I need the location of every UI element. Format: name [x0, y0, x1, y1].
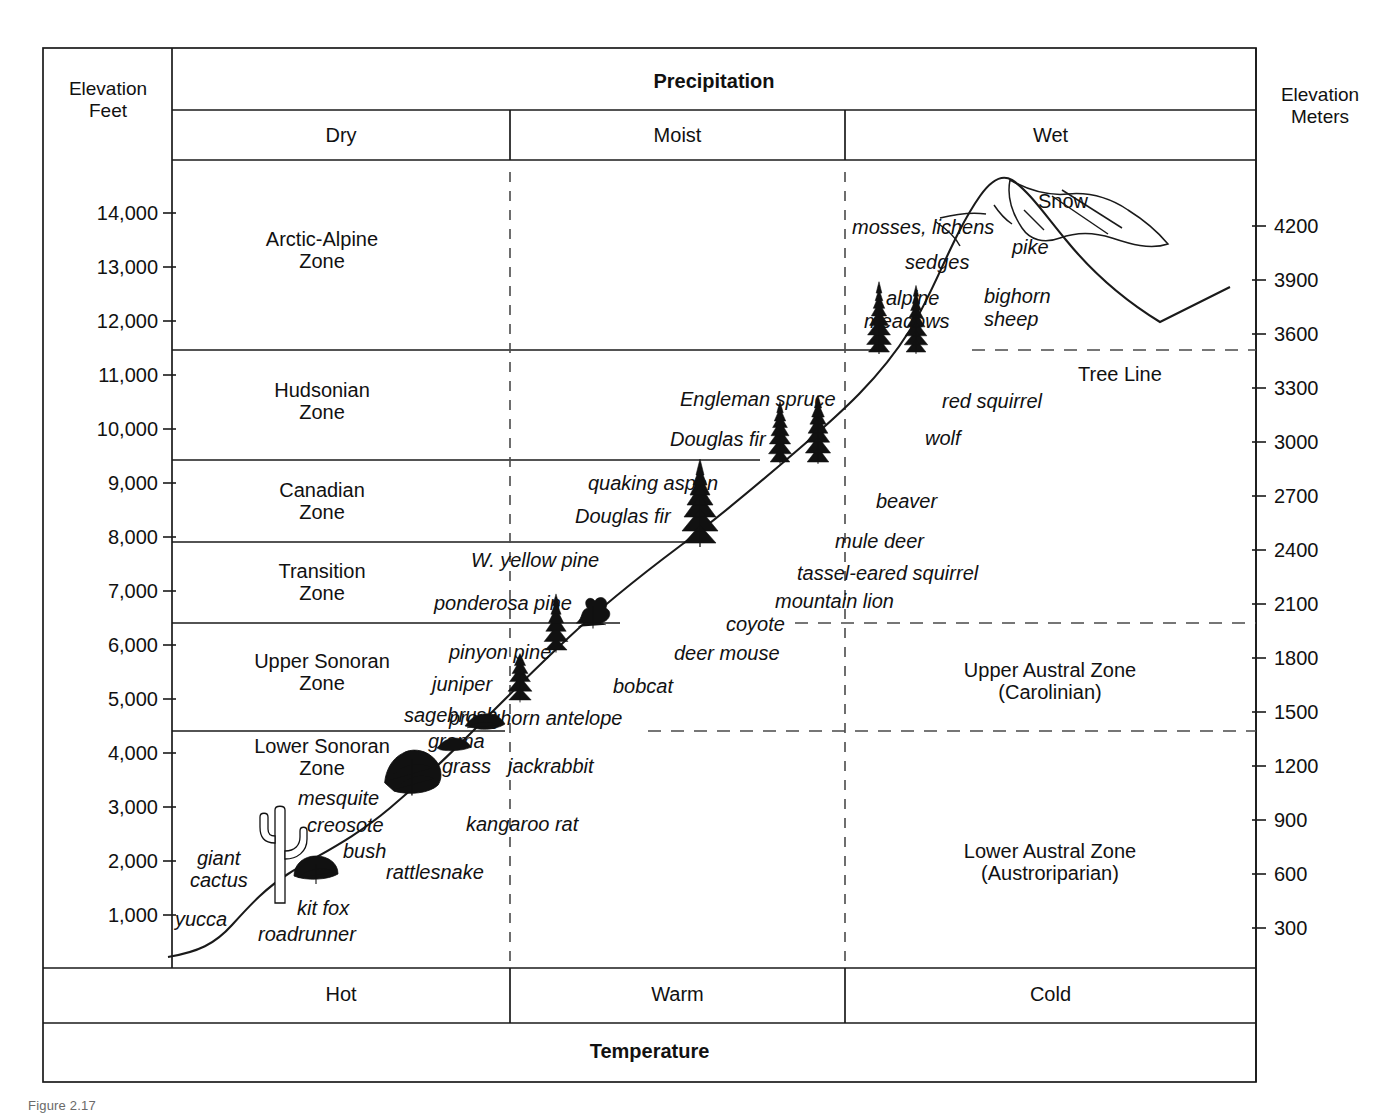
species-label-pinyon-pine: pinyon pine [449, 641, 551, 663]
species-label-juniper: juniper [432, 673, 492, 695]
left-tick-marks [163, 213, 176, 915]
left-tick-label: 9,000 [48, 472, 158, 494]
species-label-bighorn: bighorn [984, 285, 1051, 307]
zone-label-lower-sonoran: Lower Sonoran [182, 735, 462, 757]
species-label-tassel-eared-squirrel: tassel-eared squirrel [797, 562, 978, 584]
figure-canvas: Precipitation Dry Moist Wet Hot Warm Col… [0, 0, 1380, 1119]
left-tick-label: 4,000 [48, 742, 158, 764]
species-label-sheep: sheep [984, 308, 1039, 330]
right-tick-label: 3600 [1274, 323, 1364, 345]
zone-label-lower-sonoran-line2: Zone [182, 757, 462, 779]
left-tick-label: 5,000 [48, 688, 158, 710]
species-label-w-yellow-pine: W. yellow pine [471, 549, 599, 571]
precipitation-header: Precipitation [172, 70, 1256, 92]
right-tick-label: 2400 [1274, 539, 1364, 561]
temp-column-cold: Cold [845, 983, 1256, 1005]
right-tick-label: 2700 [1274, 485, 1364, 507]
left-tick-label: 1,000 [48, 904, 158, 926]
right-axis-title-line1: Elevation [1262, 84, 1378, 105]
species-label-douglas-fir-lower: Douglas fir [575, 505, 671, 527]
species-label-douglas-fir-upper: Douglas fir [670, 428, 766, 450]
precip-column-moist: Moist [510, 124, 845, 146]
species-label-cactus: cactus [190, 869, 248, 891]
zone-label-upper-austral-line2: (Carolinian) [900, 681, 1200, 703]
species-label-creosote: creosote [307, 814, 384, 836]
zone-label-canadian-line2: Zone [192, 501, 452, 523]
figure-caption: Figure 2.17 [28, 1098, 96, 1113]
tree-icon [576, 598, 609, 629]
species-label-kangaroo-rat: kangaroo rat [466, 813, 578, 835]
species-label-giant: giant [197, 847, 240, 869]
species-label-jackrabbit: jackrabbit [508, 755, 594, 777]
species-label-kit-fox: kit fox [297, 897, 349, 919]
species-label-roadrunner: roadrunner [258, 923, 356, 945]
zone-label-hudsonian-line2: Zone [192, 401, 452, 423]
species-label-wolf: wolf [925, 427, 961, 449]
zone-label-canadian: Canadian [192, 479, 452, 501]
species-label-pronghorn-antelope: pronghorn antelope [449, 707, 622, 729]
species-label-grama: grama [428, 730, 485, 752]
zone-label-arctic-alpine: Arctic-Alpine [192, 228, 452, 250]
left-tick-label: 6,000 [48, 634, 158, 656]
left-tick-label: 10,000 [48, 418, 158, 440]
left-tick-label: 3,000 [48, 796, 158, 818]
left-tick-label: 11,000 [48, 364, 158, 386]
species-label-quaking-aspen: quaking aspen [588, 472, 718, 494]
left-axis-title-line2: Feet [48, 100, 168, 121]
zone-label-transition: Transition [192, 560, 452, 582]
right-tick-label: 3000 [1274, 431, 1364, 453]
zone-label-transition-line2: Zone [192, 582, 452, 604]
species-label-red-squirrel: red squirrel [942, 390, 1042, 412]
species-label-sedges: sedges [905, 251, 970, 273]
temp-column-hot: Hot [172, 983, 510, 1005]
precip-column-wet: Wet [845, 124, 1256, 146]
right-tick-label: 4200 [1274, 215, 1364, 237]
species-label-mesquite: mesquite [298, 787, 379, 809]
species-label-bush: bush [343, 840, 386, 862]
left-tick-label: 8,000 [48, 526, 158, 548]
left-tick-label: 13,000 [48, 256, 158, 278]
left-tick-label: 14,000 [48, 202, 158, 224]
species-label-engleman-spruce: Engleman spruce [680, 388, 836, 410]
zone-label-upper-sonoran: Upper Sonoran [182, 650, 462, 672]
right-tick-marks [1252, 226, 1266, 928]
species-label-bobcat: bobcat [613, 675, 673, 697]
tree-icon [769, 401, 792, 463]
zone-label-upper-austral: Upper Austral Zone [900, 659, 1200, 681]
right-tick-label: 1800 [1274, 647, 1364, 669]
species-label-mountain-lion: mountain lion [775, 590, 894, 612]
right-tick-label: 1500 [1274, 701, 1364, 723]
zone-label-lower-austral: Lower Austral Zone [900, 840, 1200, 862]
right-tick-label: 3900 [1274, 269, 1364, 291]
right-axis-title-line2: Meters [1262, 106, 1378, 127]
species-label-beaver: beaver [876, 490, 937, 512]
species-label-rattlesnake: rattlesnake [386, 861, 484, 883]
left-tick-label: 2,000 [48, 850, 158, 872]
species-label-pike: pike [1012, 236, 1049, 258]
left-tick-label: 12,000 [48, 310, 158, 332]
species-label-meadows: meadows [864, 310, 950, 332]
left-axis-title-line1: Elevation [48, 78, 168, 99]
right-tick-label: 1200 [1274, 755, 1364, 777]
species-label-ponderosa-pine: ponderosa pine [434, 592, 572, 614]
shrub-icon [294, 856, 338, 884]
snow-label: Snow [1038, 190, 1088, 212]
temperature-header: Temperature [43, 1040, 1256, 1062]
left-tick-label: 7,000 [48, 580, 158, 602]
right-tick-label: 600 [1274, 863, 1364, 885]
species-label-coyote: coyote [726, 613, 785, 635]
zone-label-arctic-alpine-line2: Zone [192, 250, 452, 272]
right-tick-label: 300 [1274, 917, 1364, 939]
species-label-alpine: alpine [886, 287, 939, 309]
precip-column-dry: Dry [172, 124, 510, 146]
species-label-mosses-lichens: mosses, lichens [852, 216, 994, 238]
right-tick-label: 3300 [1274, 377, 1364, 399]
tree-line-label: Tree Line [1078, 363, 1162, 385]
right-tick-label: 2100 [1274, 593, 1364, 615]
right-tick-label: 900 [1274, 809, 1364, 831]
species-label-grass: grass [442, 755, 491, 777]
zone-label-upper-sonoran-line2: Zone [182, 672, 462, 694]
species-label-deer-mouse: deer mouse [674, 642, 780, 664]
species-label-mule-deer: mule deer [835, 530, 924, 552]
zone-label-hudsonian: Hudsonian [192, 379, 452, 401]
